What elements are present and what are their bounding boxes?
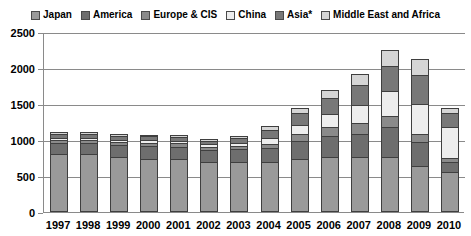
x-axis-tick-label: 1997 xyxy=(43,219,73,231)
bar-segment-japan[interactable] xyxy=(50,154,68,212)
bar-segment-china[interactable] xyxy=(351,105,369,123)
bar-2007[interactable] xyxy=(351,74,369,212)
bar-2010[interactable] xyxy=(441,108,459,212)
x-axis-tick-label: 1998 xyxy=(73,219,103,231)
x-axis-tick-label: 2007 xyxy=(344,219,374,231)
x-axis-tick-label: 2004 xyxy=(254,219,284,231)
bar-segment-america[interactable] xyxy=(411,142,429,166)
y-axis-tick-label: 0 xyxy=(29,208,35,219)
y-axis-tick-label: 2000 xyxy=(11,64,35,75)
bar-segment-china[interactable] xyxy=(321,114,339,127)
bar-2004[interactable] xyxy=(261,126,279,212)
bar-segment-america[interactable] xyxy=(351,134,369,158)
bar-segment-japan[interactable] xyxy=(381,157,399,212)
bar-segment-america[interactable] xyxy=(140,146,158,159)
legend-item-asia[interactable]: Asia* xyxy=(275,10,312,20)
bar-segment-middle-east-and-africa[interactable] xyxy=(321,90,339,98)
bar-segment-asia[interactable] xyxy=(261,130,279,138)
bar-segment-china[interactable] xyxy=(381,91,399,116)
legend-swatch-middle-east-africa xyxy=(321,11,330,20)
bar-segment-japan[interactable] xyxy=(80,154,98,212)
bar-segment-america[interactable] xyxy=(441,162,459,171)
bar-segment-japan[interactable] xyxy=(110,157,128,212)
legend-label: China xyxy=(238,10,266,20)
bar-segment-america[interactable] xyxy=(110,145,128,157)
plot-area xyxy=(43,33,464,213)
bar-segment-japan[interactable] xyxy=(351,157,369,212)
y-axis-tick-label: 1500 xyxy=(11,100,35,111)
bar-segment-america[interactable] xyxy=(170,147,188,159)
chart-legend: JapanAmericaEurope & CISChinaAsia*Middle… xyxy=(0,8,471,22)
gridline-1000 xyxy=(44,141,465,142)
bar-segment-america[interactable] xyxy=(80,143,98,155)
stacked-bar-chart: JapanAmericaEurope & CISChinaAsia*Middle… xyxy=(0,0,471,236)
bar-2001[interactable] xyxy=(170,135,188,212)
bar-segment-japan[interactable] xyxy=(291,159,309,212)
x-axis-tick-label: 2001 xyxy=(163,219,193,231)
bar-2006[interactable] xyxy=(321,90,339,212)
x-axis: 1997199819992000200120022003200420052006… xyxy=(43,214,464,236)
chart-title xyxy=(0,0,471,3)
bar-2002[interactable] xyxy=(200,139,218,212)
bar-segment-asia[interactable] xyxy=(381,66,399,91)
bar-segment-europe-cis[interactable] xyxy=(321,127,339,136)
legend-label: America xyxy=(93,10,132,20)
bar-segment-europe-cis[interactable] xyxy=(411,134,429,142)
bar-segment-china[interactable] xyxy=(411,104,429,134)
x-axis-tick-label: 2002 xyxy=(193,219,223,231)
legend-label: Japan xyxy=(43,10,72,20)
bar-segment-america[interactable] xyxy=(230,149,248,161)
x-axis-tick-label: 2010 xyxy=(434,219,464,231)
bar-segment-japan[interactable] xyxy=(170,159,188,212)
bar-segment-japan[interactable] xyxy=(441,172,459,212)
bar-segment-america[interactable] xyxy=(321,136,339,158)
bar-segment-asia[interactable] xyxy=(411,75,429,104)
bar-1999[interactable] xyxy=(110,134,128,212)
bar-2000[interactable] xyxy=(140,135,158,212)
bar-segment-asia[interactable] xyxy=(351,85,369,106)
bar-2009[interactable] xyxy=(411,59,429,212)
bar-segment-japan[interactable] xyxy=(261,162,279,212)
legend-label: Middle East and Africa xyxy=(333,10,440,20)
bar-2005[interactable] xyxy=(291,108,309,212)
bar-segment-china[interactable] xyxy=(441,127,459,158)
bar-segment-america[interactable] xyxy=(261,148,279,162)
bar-segment-america[interactable] xyxy=(291,141,309,159)
x-axis-tick-label: 2000 xyxy=(133,219,163,231)
gridline-2500 xyxy=(44,33,465,34)
bar-segment-japan[interactable] xyxy=(200,162,218,212)
legend-swatch-america xyxy=(81,11,90,20)
y-axis-tick-label: 2500 xyxy=(11,28,35,39)
legend-label: Asia* xyxy=(287,10,312,20)
bar-2003[interactable] xyxy=(230,136,248,212)
legend-swatch-europe-cis xyxy=(141,11,150,20)
bar-segment-asia[interactable] xyxy=(291,113,309,125)
bar-segment-middle-east-and-africa[interactable] xyxy=(351,74,369,85)
bar-segment-japan[interactable] xyxy=(140,159,158,212)
legend-item-america[interactable]: America xyxy=(81,10,132,20)
bar-segment-japan[interactable] xyxy=(321,157,339,212)
bar-1997[interactable] xyxy=(50,132,68,212)
bar-segment-europe-cis[interactable] xyxy=(381,116,399,127)
bar-segment-america[interactable] xyxy=(200,150,218,162)
bar-segment-america[interactable] xyxy=(50,143,68,154)
bar-2008[interactable] xyxy=(381,50,399,212)
y-axis-tick-label: 500 xyxy=(17,172,35,183)
bar-segment-asia[interactable] xyxy=(441,113,459,127)
bar-segment-america[interactable] xyxy=(381,127,399,157)
bar-segment-europe-cis[interactable] xyxy=(351,123,369,133)
gridline-1500 xyxy=(44,105,465,106)
x-axis-tick-label: 2009 xyxy=(404,219,434,231)
bar-segment-asia[interactable] xyxy=(321,98,339,115)
bar-1998[interactable] xyxy=(80,132,98,212)
legend-item-middle-east-and-africa[interactable]: Middle East and Africa xyxy=(321,10,440,20)
legend-item-europe-cis[interactable]: Europe & CIS xyxy=(141,10,217,20)
x-axis-tick-label: 2008 xyxy=(374,219,404,231)
legend-item-china[interactable]: China xyxy=(226,10,266,20)
bar-segment-middle-east-and-africa[interactable] xyxy=(381,50,399,66)
bar-segment-middle-east-and-africa[interactable] xyxy=(411,59,429,76)
bar-segment-china[interactable] xyxy=(291,125,309,134)
bar-segment-japan[interactable] xyxy=(411,166,429,212)
legend-swatch-china xyxy=(226,11,235,20)
bar-segment-japan[interactable] xyxy=(230,162,248,212)
